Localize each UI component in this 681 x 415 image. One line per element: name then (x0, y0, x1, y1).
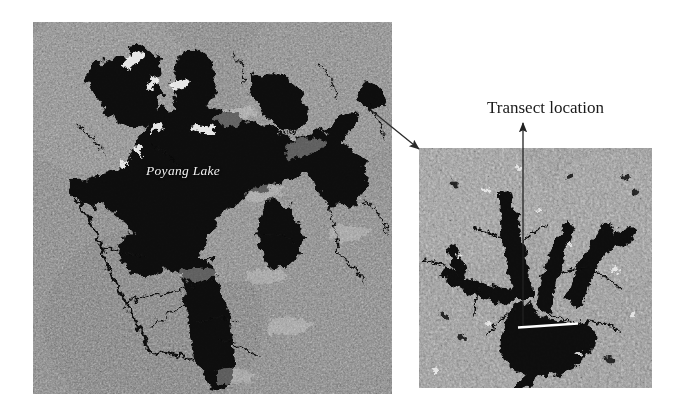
figure-root: Poyang Lake (0, 0, 681, 415)
overview-raster (33, 22, 392, 394)
detail-raster (419, 148, 652, 388)
transect-location-label: Transect location (487, 98, 604, 118)
poyang-lake-overview-image (33, 22, 392, 394)
transect-detail-image (419, 148, 652, 388)
